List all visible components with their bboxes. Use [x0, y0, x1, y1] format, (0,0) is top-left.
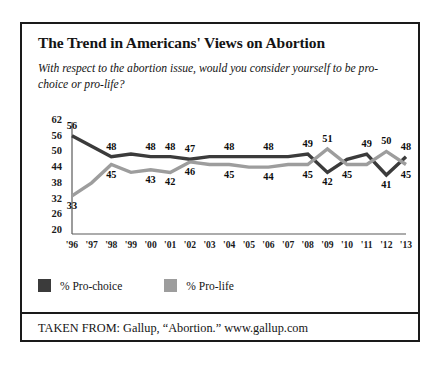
legend-label-pro-life: % Pro-life	[186, 280, 234, 292]
data-point-label: 45	[401, 170, 411, 180]
legend-item-pro-choice: % Pro-choice	[38, 279, 122, 292]
data-point-label: 42	[322, 177, 332, 187]
source-divider	[22, 312, 418, 314]
data-point-label: 47	[185, 144, 195, 154]
figure-title: The Trend in Americans' Views on Abortio…	[38, 34, 325, 52]
data-point-label: 48	[401, 142, 411, 152]
data-point-label: 33	[67, 201, 77, 211]
y-tick-label: 20	[36, 225, 62, 236]
y-tick-label: 38	[36, 178, 62, 189]
data-point-label: 45	[224, 170, 234, 180]
y-tick-label: 44	[36, 162, 62, 173]
y-tick-label: 32	[36, 194, 62, 205]
legend-label-pro-choice: % Pro-choice	[60, 280, 122, 292]
data-point-label: 45	[303, 170, 313, 180]
data-point-label: 50	[381, 136, 391, 146]
data-point-label: 41	[381, 180, 391, 190]
y-tick-label: 56	[36, 131, 62, 142]
data-point-label: 49	[362, 139, 372, 149]
data-point-label: 48	[263, 142, 273, 152]
data-point-label: 45	[106, 170, 116, 180]
y-tick-label: 50	[36, 146, 62, 157]
data-point-label: 49	[303, 139, 313, 149]
data-point-label: 44	[263, 172, 273, 182]
data-point-label: 48	[165, 142, 175, 152]
chart-svg	[34, 116, 412, 256]
chart-legend: % Pro-choice % Pro-life	[38, 279, 234, 292]
data-point-label: 46	[185, 167, 195, 177]
data-point-label: 45	[342, 170, 352, 180]
legend-swatch-pro-life-icon	[164, 279, 177, 292]
legend-item-pro-life: % Pro-life	[164, 279, 234, 292]
figure-container: The Trend in Americans' Views on Abortio…	[20, 22, 420, 342]
data-point-label: 42	[165, 177, 175, 187]
data-point-label: 48	[106, 142, 116, 152]
y-tick-label: 62	[36, 115, 62, 126]
data-point-label: 51	[322, 134, 332, 144]
data-point-label: 48	[145, 142, 155, 152]
y-tick-label: 26	[36, 209, 62, 220]
data-point-label: 56	[67, 121, 77, 131]
figure-subtitle: With respect to the abortion issue, woul…	[38, 61, 406, 92]
x-tick-label: '13	[395, 240, 417, 250]
data-point-label: 43	[145, 175, 155, 185]
source-attribution: TAKEN FROM: Gallup, “Abortion.” www.gall…	[38, 321, 308, 336]
data-point-label: 48	[224, 142, 234, 152]
legend-swatch-pro-choice-icon	[38, 279, 51, 292]
chart-plot-area: 6256504438322620 '96'97'98'99'00'01'02'0…	[34, 116, 412, 256]
